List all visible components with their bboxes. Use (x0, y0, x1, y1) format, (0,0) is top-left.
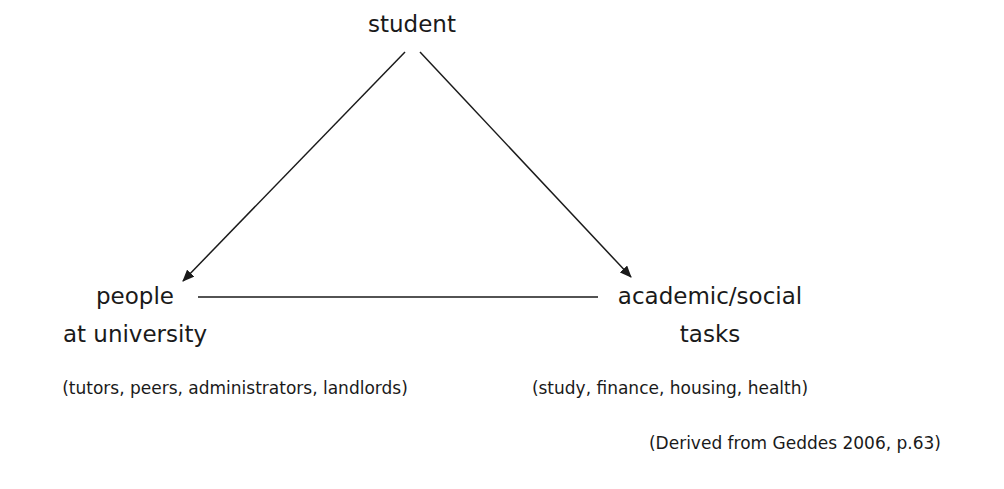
node-people-line1: people (30, 280, 240, 313)
diagram-edges (0, 0, 1004, 489)
edge-student-to-tasks (420, 52, 631, 277)
edge-student-to-people (183, 52, 405, 281)
node-tasks-detail: (study, finance, housing, health) (520, 377, 820, 399)
node-people-detail: (tutors, peers, administrators, landlord… (0, 377, 470, 399)
node-people-line2: at university (30, 318, 240, 351)
node-tasks-line1: academic/social (600, 280, 820, 313)
citation: (Derived from Geddes 2006, p.63) (610, 432, 980, 454)
node-student: student (312, 8, 512, 41)
node-tasks-line2: tasks (600, 318, 820, 351)
